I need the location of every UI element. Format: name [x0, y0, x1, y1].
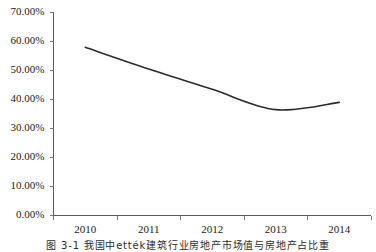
x-tick-label: 2012: [201, 223, 223, 235]
y-tick-label: 20.00%: [11, 150, 45, 162]
line-chart: 0.00%10.00%20.00%30.00%40.00%50.00%60.00…: [0, 0, 376, 252]
figure-container: 0.00%10.00%20.00%30.00%40.00%50.00%60.00…: [0, 0, 376, 252]
x-tick-label: 2014: [328, 223, 351, 235]
y-tick-label: 50.00%: [11, 63, 45, 75]
data-series-line: [85, 47, 339, 110]
y-axis-tick-labels: 0.00%10.00%20.00%30.00%40.00%50.00%60.00…: [11, 5, 45, 220]
figure-caption: 图 3-1 我国中ették建筑行业房地产市场值与房地产占比重: [0, 240, 376, 252]
y-tick-label: 30.00%: [11, 121, 45, 133]
x-tick-label: 2010: [74, 223, 97, 235]
x-tick-label: 2013: [265, 223, 288, 235]
y-axis-tick-marks: [50, 13, 54, 216]
x-axis-tick-marks: [54, 216, 372, 220]
y-tick-label: 40.00%: [11, 92, 45, 104]
y-tick-label: 10.00%: [11, 179, 45, 191]
y-tick-label: 0.00%: [16, 208, 44, 220]
y-tick-label: 60.00%: [11, 34, 45, 46]
x-axis-tick-labels: 20102011201220132014: [74, 223, 351, 235]
y-tick-label: 70.00%: [11, 5, 45, 17]
x-tick-label: 2011: [138, 223, 160, 235]
